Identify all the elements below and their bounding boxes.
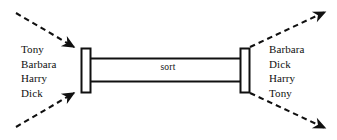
input-name-item: Barbara	[21, 57, 57, 72]
output-name-item: Harry	[269, 71, 305, 86]
process-label: sort	[108, 62, 228, 72]
output-name-item: Dick	[269, 57, 305, 72]
input-name-item: Dick	[21, 86, 57, 101]
input-name-item: Harry	[21, 71, 57, 86]
input-name-list: Tony Barbara Harry Dick	[21, 42, 57, 100]
output-flange	[241, 49, 250, 93]
output-name-list: Barbara Dick Harry Tony	[269, 42, 305, 100]
output-name-item: Barbara	[269, 42, 305, 57]
input-flange	[82, 49, 91, 93]
sort-pipe-diagram: Tony Barbara Harry Dick Barbara Dick Har…	[0, 0, 337, 140]
input-name-item: Tony	[21, 42, 57, 57]
output-name-item: Tony	[269, 86, 305, 101]
